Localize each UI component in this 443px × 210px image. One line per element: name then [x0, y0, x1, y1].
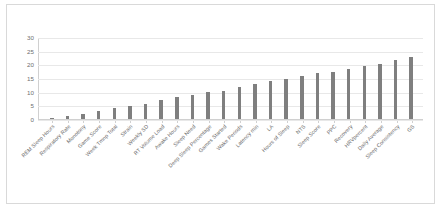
- bar[interactable]: [191, 95, 194, 119]
- bar[interactable]: [113, 108, 116, 119]
- bar[interactable]: [128, 106, 131, 120]
- chart-container: 051015202530 REM Sleep HoursRespiratory …: [6, 4, 435, 204]
- bar-slot: [138, 38, 154, 119]
- bar-slot: [216, 38, 232, 119]
- y-tick-label: 0: [31, 117, 34, 123]
- bar[interactable]: [300, 76, 303, 119]
- bar-slot: [185, 38, 201, 119]
- bar[interactable]: [144, 104, 147, 119]
- bar-slot: [357, 38, 373, 119]
- x-tick-slot: Hours of Sleep: [279, 121, 295, 201]
- bar-slot: [403, 38, 419, 119]
- x-tick-mark: [52, 121, 53, 123]
- x-tick-mark: [381, 121, 382, 123]
- bar[interactable]: [175, 97, 178, 119]
- x-tick-mark: [209, 121, 210, 123]
- bar-slot: [75, 38, 91, 119]
- bar[interactable]: [66, 116, 69, 119]
- bar-slot: [341, 38, 357, 119]
- bar[interactable]: [409, 57, 412, 119]
- bar-slot: [372, 38, 388, 119]
- x-tick-mark: [224, 121, 225, 123]
- plot-area: 051015202530: [38, 38, 423, 120]
- x-tick-mark: [412, 121, 413, 123]
- bar-slot: [60, 38, 76, 119]
- bar-slot: [325, 38, 341, 119]
- x-tick-mark: [287, 121, 288, 123]
- bar[interactable]: [159, 100, 162, 119]
- x-tick-slot: Sleep Consistency: [389, 121, 405, 201]
- x-tick-slot: Sleep Score: [310, 121, 326, 201]
- bar[interactable]: [206, 92, 209, 119]
- bar-slot: [44, 38, 60, 119]
- bar[interactable]: [238, 87, 241, 119]
- x-tick-mark: [240, 121, 241, 123]
- x-tick-mark: [256, 121, 257, 123]
- bar-slot: [169, 38, 185, 119]
- bar-slot: [388, 38, 404, 119]
- bar-slot: [153, 38, 169, 119]
- bar[interactable]: [253, 84, 256, 119]
- x-tick-mark: [271, 121, 272, 123]
- x-tick-mark: [130, 121, 131, 123]
- bar[interactable]: [316, 73, 319, 119]
- x-tick-label: LA: [266, 124, 275, 133]
- y-tick-label: 10: [27, 90, 34, 96]
- bar[interactable]: [81, 114, 84, 119]
- x-axis-tick-labels: REM Sleep HoursRespiratory RateMonotonyG…: [39, 121, 424, 201]
- bar[interactable]: [97, 111, 100, 119]
- bar[interactable]: [269, 81, 272, 119]
- bar[interactable]: [347, 69, 350, 119]
- bar-series: [39, 38, 423, 119]
- x-tick-mark: [146, 121, 147, 123]
- y-tick-label: 5: [31, 103, 34, 109]
- y-tick-label: 30: [27, 35, 34, 41]
- x-tick-mark: [99, 121, 100, 123]
- x-tick-mark: [193, 121, 194, 123]
- bar[interactable]: [394, 60, 397, 119]
- bar[interactable]: [378, 64, 381, 119]
- bar-slot: [232, 38, 248, 119]
- x-tick-mark: [83, 121, 84, 123]
- x-tick-label: NTS: [295, 124, 307, 136]
- y-tick-label: 25: [27, 49, 34, 55]
- x-tick-slot: Latency min: [248, 121, 264, 201]
- x-tick-mark: [318, 121, 319, 123]
- x-tick-mark: [334, 121, 335, 123]
- bar-slot: [294, 38, 310, 119]
- bar[interactable]: [284, 79, 287, 120]
- bar-slot: [278, 38, 294, 119]
- y-tick-label: 20: [27, 62, 34, 68]
- bar[interactable]: [222, 91, 225, 119]
- x-tick-label: PPC: [326, 124, 338, 136]
- bar-slot: [263, 38, 279, 119]
- x-tick-mark: [350, 121, 351, 123]
- x-tick-label: GS: [407, 124, 416, 133]
- x-tick-slot: GS: [404, 121, 420, 201]
- bar-slot: [247, 38, 263, 119]
- bar-slot: [200, 38, 216, 119]
- bar-slot: [310, 38, 326, 119]
- bar-slot: [122, 38, 138, 119]
- bar-slot: [107, 38, 123, 119]
- bar-slot: [91, 38, 107, 119]
- bar[interactable]: [331, 72, 334, 119]
- bar[interactable]: [50, 118, 53, 119]
- bar[interactable]: [363, 66, 366, 119]
- x-tick-mark: [365, 121, 366, 123]
- y-tick-label: 15: [27, 76, 34, 82]
